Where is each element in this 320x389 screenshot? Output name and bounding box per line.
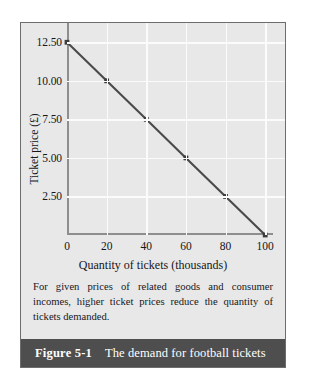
gridline-horizontal [67,81,285,83]
figure-caption: For given prices of related goods and co… [33,279,273,339]
x-axis-title: Quantity of tickets (thousands) [21,258,285,273]
chart-area: Ticket price (£) 0204060801002.505.007.5… [21,23,285,275]
figure-number: Figure 5-1 [35,346,92,361]
gridline-horizontal [67,119,285,121]
x-tick-label: 60 [180,240,192,252]
demand-curve [67,23,285,235]
x-tick-label: 0 [64,240,70,252]
demand-line [67,42,265,235]
gridline-vertical [107,23,109,235]
gridline-horizontal [67,196,285,198]
x-tick-label: 40 [141,240,153,252]
gridline-horizontal [67,42,285,44]
y-tick-label: 10.00 [37,75,62,87]
y-tick-label: 5.00 [42,152,62,164]
y-tick-label: 12.50 [37,36,62,48]
x-tick-label: 80 [220,240,232,252]
gridline-vertical [186,23,188,235]
plot-frame: 0204060801002.505.007.5010.0012.50 [67,35,285,235]
gridline-vertical [226,23,228,235]
gridline-vertical [265,23,267,235]
x-tick-label: 20 [101,240,113,252]
figure-title: The demand for football tickets [105,346,266,361]
x-tick-label: 100 [257,240,274,252]
y-tick-label: 2.50 [42,190,62,202]
figure-title-bar: Figure 5-1 The demand for football ticke… [21,339,285,367]
y-tick-label: 7.50 [42,113,62,125]
y-axis-title: Ticket price (£) [28,113,40,184]
gridline-horizontal [67,158,285,160]
gridline-vertical [146,23,148,235]
figure-panel: Ticket price (£) 0204060801002.505.007.5… [20,22,286,368]
